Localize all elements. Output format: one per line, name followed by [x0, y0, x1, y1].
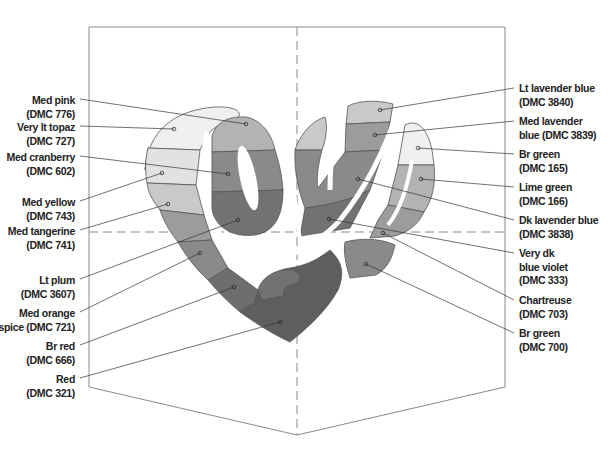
right-label-dk-lavender-blue: Dk lavender blue(DMC 3838): [519, 214, 598, 241]
left-label-very-lt-topaz: Very lt topaz(DMC 727): [17, 121, 75, 148]
left-label-med-tangerine: Med tangerine(DMC 741): [8, 225, 75, 252]
left-label-med-pink: Med pink(DMC 776): [26, 94, 75, 121]
region-med-yellow: [146, 148, 200, 185]
left-label-med-cranberry: Med cranberry(DMC 602): [7, 151, 75, 178]
right-label-lt-lavender-blue: Lt lavender blue(DMC 3840): [519, 82, 595, 109]
leader-line: [80, 322, 280, 378]
leader-line: [383, 233, 514, 300]
region-v-left-top: [295, 117, 326, 150]
right-label-lime-green: Lime green(DMC 166): [519, 181, 572, 208]
leader-line: [80, 253, 200, 312]
left-label-br-red: Br red(DMC 666): [26, 340, 75, 367]
leader-line: [366, 264, 514, 333]
heart-shape: [145, 101, 435, 342]
left-label-red: Red(DMC 321): [26, 373, 75, 400]
right-label-chartreuse: Chartreuse(DMC 703): [519, 294, 571, 321]
leader-line: [380, 88, 514, 110]
right-label-br-green-700: Br green(DMC 700): [519, 327, 568, 354]
region-lt-plum: [160, 210, 212, 242]
leader-line: [80, 204, 168, 230]
diagram-stage: Med pink(DMC 776)Very lt topaz(DMC 727)M…: [0, 0, 613, 458]
right-label-br-green-165: Br green(DMC 165): [519, 148, 568, 175]
right-label-med-lavender-blue: Med lavenderblue (DMC 3839): [519, 115, 596, 142]
right-label-very-dk-blue-violet: Very dkblue violet(DMC 333): [519, 247, 568, 288]
leader-line: [80, 287, 234, 345]
leader-line: [80, 126, 174, 129]
region-lt-lavender-blue: [346, 101, 393, 124]
left-label-lt-plum: Lt plum(DMC 3607): [21, 274, 75, 301]
left-label-med-orange-spice: Med orangespice (DMC 721): [0, 307, 75, 334]
left-label-med-yellow: Med yellow(DMC 743): [22, 196, 75, 223]
region-med-tangerine: [147, 183, 204, 215]
leader-line: [421, 179, 514, 187]
region-br-green-700: [344, 239, 395, 278]
